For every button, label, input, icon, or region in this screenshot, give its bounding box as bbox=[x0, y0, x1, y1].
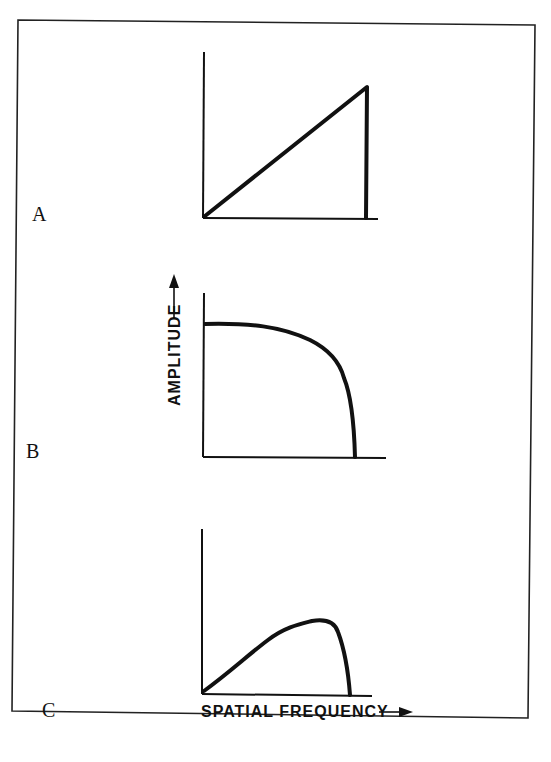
panel-a-label: A bbox=[32, 203, 47, 225]
figure-canvas: A B AMPLITUDE C SPATIAL FREQUENCY bbox=[0, 0, 551, 762]
panel-b: B AMPLITUDE bbox=[26, 274, 386, 462]
x-axis-label: SPATIAL FREQUENCY bbox=[201, 703, 389, 720]
panel-a: A bbox=[32, 52, 378, 225]
panel-c-curve bbox=[204, 620, 350, 695]
y-axis-label-group: AMPLITUDE bbox=[166, 304, 183, 406]
panel-c-x-axis bbox=[202, 694, 372, 696]
figure-frame bbox=[12, 20, 535, 718]
panel-b-x-axis bbox=[203, 457, 386, 458]
panel-b-curve bbox=[205, 324, 355, 457]
panel-a-y-axis bbox=[203, 52, 204, 218]
panel-a-curve bbox=[205, 87, 367, 218]
panel-a-x-axis bbox=[203, 218, 378, 219]
panel-b-label: B bbox=[26, 440, 39, 462]
panel-c-label: C bbox=[42, 699, 55, 721]
y-axis-label: AMPLITUDE bbox=[166, 304, 183, 406]
panel-c: C SPATIAL FREQUENCY bbox=[42, 529, 413, 721]
panel-b-y-axis bbox=[203, 293, 204, 457]
